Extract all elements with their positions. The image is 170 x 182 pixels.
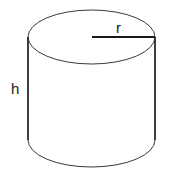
height-label: h	[11, 80, 19, 97]
cylinder-diagram: r h	[0, 0, 170, 182]
cylinder-bottom-arc	[28, 140, 155, 167]
radius-label: r	[116, 19, 121, 36]
